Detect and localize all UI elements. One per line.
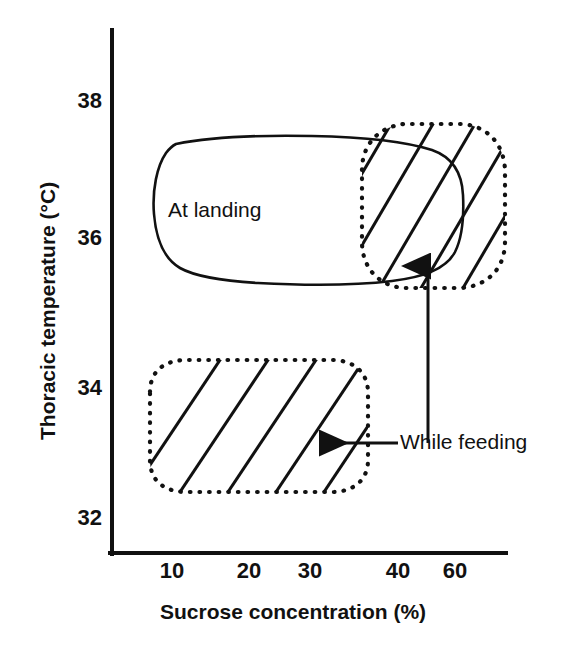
y-tick-label-38: 38 — [56, 88, 102, 114]
region-label-at-landing: At landing — [168, 198, 261, 222]
x-axis-title: Sucrose concentration (%) — [160, 600, 426, 624]
x-tick-label-40: 40 — [375, 558, 421, 584]
x-tick-label-20: 20 — [226, 558, 272, 584]
y-axis-title: Thoracic temperature (°C) — [36, 182, 60, 440]
x-tick-label-10: 10 — [149, 558, 195, 584]
y-tick-label-34: 34 — [56, 375, 102, 401]
axis-lines — [110, 30, 506, 554]
region-while-feeding-lower — [120, 345, 422, 510]
x-tick-label-60: 60 — [432, 558, 478, 584]
y-tick-label-36: 36 — [56, 225, 102, 251]
region-label-while-feeding: While feeding — [400, 430, 527, 454]
annotation-arrows — [322, 266, 428, 443]
y-tick-label-32: 32 — [56, 505, 102, 531]
x-tick-label-30: 30 — [287, 558, 333, 584]
chart-figure: 38 36 34 32 10 20 30 40 60 Thoracic temp… — [0, 0, 572, 645]
hatch-lines-lower — [120, 345, 422, 510]
